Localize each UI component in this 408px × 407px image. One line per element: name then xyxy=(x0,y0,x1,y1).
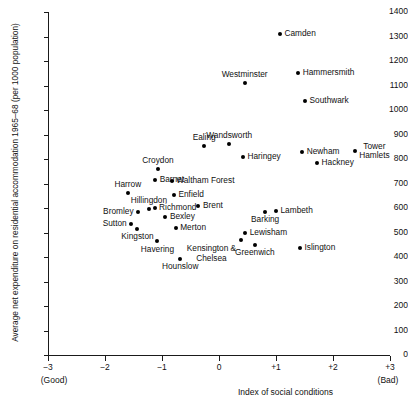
x-tick-mark xyxy=(162,356,163,361)
data-point-label: Westminster xyxy=(222,70,268,79)
data-point-label: Bexley xyxy=(170,212,195,221)
data-point xyxy=(172,193,176,197)
y-tick-label: 1300 xyxy=(370,32,408,41)
data-point-label: Newham xyxy=(307,147,340,156)
data-point-label: Kensington & Chelsea xyxy=(187,244,236,263)
data-point xyxy=(174,226,178,230)
data-point-label: Lambeth xyxy=(281,206,313,215)
y-tick-mark xyxy=(44,159,49,160)
data-point-label: Ealing xyxy=(193,133,216,142)
x-tick-label: −2 xyxy=(90,363,120,372)
data-point xyxy=(243,81,247,85)
data-point xyxy=(155,239,159,243)
y-tick-label: 1100 xyxy=(370,81,408,90)
data-point-label: Enfield xyxy=(178,191,203,200)
y-tick-label: 1000 xyxy=(370,105,408,114)
y-tick-mark xyxy=(44,282,49,283)
y-tick-mark xyxy=(44,37,49,38)
data-point-label: Brent xyxy=(203,201,223,210)
data-point-label: Haringey xyxy=(247,152,280,161)
y-tick-mark xyxy=(44,331,49,332)
x-tick-mark xyxy=(333,356,334,361)
y-tick-mark xyxy=(44,184,49,185)
data-point-label: Waltham Forest xyxy=(176,176,234,185)
x-tick-label: 0 xyxy=(204,363,234,372)
y-tick-label: 500 xyxy=(370,228,408,237)
data-point xyxy=(241,155,245,159)
data-point xyxy=(163,215,167,219)
data-point-label: Merton xyxy=(180,223,206,232)
x-tick-mark xyxy=(276,356,277,361)
scatter-plot: 0100200300400500600700800900100011001200… xyxy=(0,0,408,407)
data-point xyxy=(135,227,139,231)
y-tick-label: 1400 xyxy=(370,7,408,16)
x-tick-label: +1 xyxy=(261,363,291,372)
y-tick-mark xyxy=(44,135,49,136)
data-point xyxy=(263,210,267,214)
y-tick-label: 200 xyxy=(370,301,408,310)
data-point-label: Islington xyxy=(304,244,335,253)
y-tick-label: 700 xyxy=(370,179,408,188)
data-point xyxy=(243,231,247,235)
x-axis-good-note: (Good) xyxy=(34,376,74,385)
data-point xyxy=(239,238,243,242)
data-point xyxy=(147,207,151,211)
data-point xyxy=(300,150,304,154)
x-tick-label: −3 xyxy=(33,363,63,372)
y-tick-label: 600 xyxy=(370,203,408,212)
data-point-label: Hammersmith xyxy=(303,69,355,78)
data-point xyxy=(196,204,200,208)
data-point xyxy=(315,161,319,165)
data-point-label: Croydon xyxy=(142,156,173,165)
data-point-label: Havering xyxy=(141,245,174,254)
x-tick-mark xyxy=(105,356,106,361)
data-point xyxy=(303,99,307,103)
data-point xyxy=(153,178,157,182)
y-tick-label: 0 xyxy=(370,350,408,359)
data-point-label: Hounslow xyxy=(162,262,198,271)
x-tick-mark xyxy=(219,356,220,361)
y-tick-mark xyxy=(44,12,49,13)
x-tick-label: −1 xyxy=(147,363,177,372)
y-tick-mark xyxy=(44,233,49,234)
data-point-label: Hackney xyxy=(322,158,354,167)
y-tick-label: 300 xyxy=(370,277,408,286)
data-point-label: Sutton xyxy=(103,219,127,228)
y-tick-label: 400 xyxy=(370,252,408,261)
data-point-label: Greenwich xyxy=(235,248,275,257)
data-point xyxy=(202,144,206,148)
data-point xyxy=(296,71,300,75)
data-point-label: Harrow xyxy=(114,180,141,189)
y-tick-label: 100 xyxy=(370,326,408,335)
data-point-label: Camden xyxy=(284,29,315,38)
data-point-label: Lewisham xyxy=(250,228,287,237)
y-axis-title: Average net expenditure on residential a… xyxy=(11,13,20,353)
data-point-label: Kingston xyxy=(121,232,153,241)
data-point xyxy=(227,142,231,146)
x-tick-mark xyxy=(48,356,49,361)
data-point-label: Barking xyxy=(251,215,279,224)
x-axis-bad-note: (Bad) xyxy=(368,376,408,385)
x-tick-mark xyxy=(390,356,391,361)
data-point xyxy=(353,149,357,153)
x-tick-label: +2 xyxy=(318,363,348,372)
y-tick-mark xyxy=(44,208,49,209)
y-tick-mark xyxy=(44,61,49,62)
x-axis-title: Index of social conditions xyxy=(238,388,406,397)
data-point xyxy=(126,191,130,195)
data-point xyxy=(298,246,302,250)
data-point xyxy=(253,243,257,247)
data-point xyxy=(274,209,278,213)
data-point xyxy=(170,179,174,183)
y-tick-label: 900 xyxy=(370,130,408,139)
y-tick-mark xyxy=(44,86,49,87)
x-tick-label: +3 xyxy=(375,363,405,372)
data-point xyxy=(156,167,160,171)
data-point-label: Tower Hamlets xyxy=(359,142,389,161)
data-point xyxy=(153,206,157,210)
data-point-label: Southwark xyxy=(310,97,349,106)
data-point xyxy=(129,222,133,226)
y-tick-mark xyxy=(44,110,49,111)
data-point xyxy=(278,32,282,36)
data-point xyxy=(136,210,140,214)
